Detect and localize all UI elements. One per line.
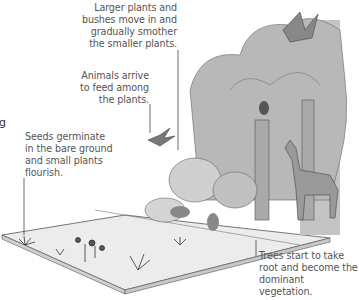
forest-canopy <box>190 19 347 235</box>
label-shrubs: Larger plants and bushes move in and gra… <box>72 2 177 50</box>
edge-fragment: g <box>0 117 6 129</box>
label-pioneer: Seeds germinate in the bare ground and s… <box>25 131 125 179</box>
swallow-icon <box>148 128 175 146</box>
squirrel-icon <box>259 101 269 115</box>
label-animals: Animals arrive to feed among the plants. <box>60 70 149 106</box>
label-forest: Trees start to take root and become the … <box>259 250 359 298</box>
